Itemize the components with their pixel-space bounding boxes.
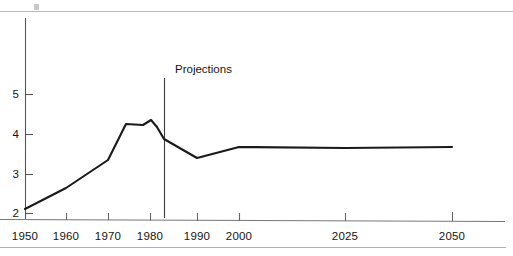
x-tick-label-1970: 1970 — [95, 230, 121, 242]
y-tick-label-3: 3 — [3, 168, 19, 180]
x-tick-label-1990: 1990 — [184, 230, 210, 242]
x-tick-label-2000: 2000 — [226, 230, 252, 242]
chart-plot-area — [0, 0, 513, 256]
y-tick-marks — [26, 95, 34, 214]
x-tick-label-1950: 1950 — [12, 230, 38, 242]
x-tick-label-2050: 2050 — [439, 230, 465, 242]
projections-annotation-label: Projections — [175, 63, 232, 75]
y-tick-label-2: 2 — [3, 207, 19, 219]
x-tick-label-2025: 2025 — [332, 230, 358, 242]
chart-figure: 1950 1960 1970 1980 1990 2000 2025 2050 … — [0, 0, 513, 256]
data-series-line — [25, 120, 452, 209]
x-tick-label-1980: 1980 — [137, 230, 163, 242]
y-tick-label-4: 4 — [3, 128, 19, 140]
x-axis — [0, 220, 505, 222]
x-tick-label-1960: 1960 — [53, 230, 79, 242]
y-tick-label-5: 5 — [3, 88, 19, 100]
